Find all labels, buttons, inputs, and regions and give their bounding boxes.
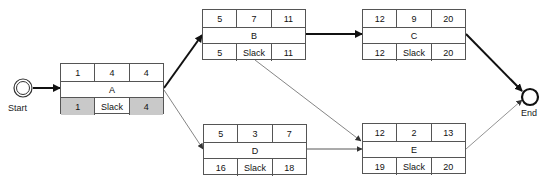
late-finish: 18 bbox=[272, 159, 306, 176]
slack: Slack bbox=[396, 158, 430, 175]
early-start: 12 bbox=[363, 124, 396, 141]
end-label: End bbox=[521, 108, 537, 118]
duration: 7 bbox=[236, 10, 270, 27]
activity-name: A bbox=[61, 82, 163, 97]
early-times-row: 12 9 20 bbox=[363, 10, 465, 27]
end-event-icon bbox=[522, 89, 538, 105]
activity-name: C bbox=[363, 28, 465, 43]
slack: Slack bbox=[237, 159, 271, 176]
late-start: 19 bbox=[363, 158, 396, 175]
edge-a-d bbox=[164, 90, 203, 149]
late-finish: 20 bbox=[431, 158, 465, 175]
early-finish: 4 bbox=[129, 64, 163, 81]
duration: 9 bbox=[396, 10, 430, 27]
early-start: 12 bbox=[363, 10, 396, 27]
slack: Slack bbox=[236, 44, 270, 61]
slack: Slack bbox=[396, 44, 430, 61]
early-times-row: 5 3 7 bbox=[204, 125, 306, 142]
start-event-icon bbox=[14, 79, 32, 97]
edge-c-end bbox=[466, 34, 522, 91]
late-times-row: 1 Slack 4 bbox=[61, 98, 163, 115]
late-start: 1 bbox=[61, 98, 94, 115]
early-start: 1 bbox=[61, 64, 94, 81]
early-finish: 20 bbox=[431, 10, 465, 27]
early-start: 5 bbox=[204, 125, 237, 142]
activity-name: B bbox=[203, 28, 305, 43]
activity-node-e[interactable]: 12 2 13 E 19 Slack 20 bbox=[362, 123, 466, 174]
late-times-row: 12 Slack 20 bbox=[363, 44, 465, 61]
activity-node-c[interactable]: 12 9 20 C 12 Slack 20 bbox=[362, 9, 466, 60]
early-times-row: 5 7 11 bbox=[203, 10, 305, 27]
activity-node-d[interactable]: 5 3 7 D 16 Slack 18 bbox=[203, 124, 307, 175]
early-start: 5 bbox=[203, 10, 236, 27]
duration: 4 bbox=[94, 64, 128, 81]
early-finish: 7 bbox=[272, 125, 306, 142]
late-finish: 4 bbox=[129, 98, 163, 115]
activity-node-b[interactable]: 5 7 11 B 5 Slack 11 bbox=[202, 9, 306, 60]
slack: Slack bbox=[94, 98, 128, 115]
late-start: 5 bbox=[203, 44, 236, 61]
late-start: 16 bbox=[204, 159, 237, 176]
duration: 3 bbox=[237, 125, 271, 142]
late-times-row: 16 Slack 18 bbox=[204, 159, 306, 176]
activity-name-row: C bbox=[363, 27, 465, 44]
start-label: Start bbox=[8, 103, 27, 113]
early-times-row: 1 4 4 bbox=[61, 64, 163, 81]
late-times-row: 5 Slack 11 bbox=[203, 44, 305, 61]
early-finish: 13 bbox=[431, 124, 465, 141]
edge-e-end bbox=[466, 100, 522, 149]
early-times-row: 12 2 13 bbox=[363, 124, 465, 141]
activity-name-row: A bbox=[61, 81, 163, 98]
late-finish: 11 bbox=[271, 44, 305, 61]
early-finish: 11 bbox=[271, 10, 305, 27]
late-finish: 20 bbox=[431, 44, 465, 61]
activity-name-row: E bbox=[363, 141, 465, 158]
activity-name-row: B bbox=[203, 27, 305, 44]
activity-name-row: D bbox=[204, 142, 306, 159]
edge-a-b bbox=[164, 35, 202, 88]
activity-name: D bbox=[204, 143, 306, 158]
late-times-row: 19 Slack 20 bbox=[363, 158, 465, 175]
activity-name: E bbox=[363, 142, 465, 157]
duration: 2 bbox=[396, 124, 430, 141]
late-start: 12 bbox=[363, 44, 396, 61]
activity-node-a[interactable]: 1 4 4 A 1 Slack 4 bbox=[60, 63, 164, 114]
